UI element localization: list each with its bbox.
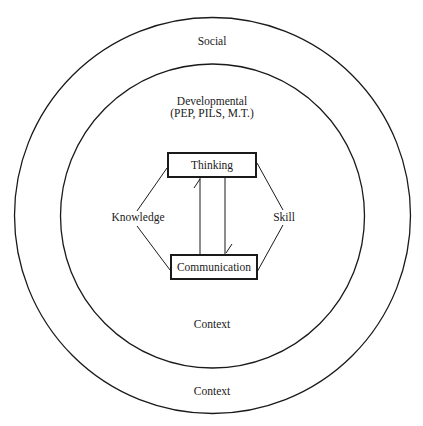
line-skill-communication (257, 225, 283, 272)
communication-node: Communication (170, 254, 258, 280)
knowledge-label: Knowledge (110, 211, 166, 224)
arrow-up-head (194, 179, 200, 188)
arrow-down-head (226, 244, 232, 253)
skill-label: Skill (268, 211, 300, 224)
outer-circle (15, 18, 411, 414)
thinking-node: Thinking (167, 152, 257, 178)
line-thinking-knowledge (137, 168, 167, 211)
line-knowledge-communication (137, 226, 170, 270)
line-thinking-skill (257, 163, 283, 210)
developmental-sublabel: (PEP, PILS, M.T.) (157, 107, 267, 120)
outer-context-label: Context (182, 385, 242, 398)
social-label: Social (182, 35, 242, 48)
diagram-canvas (0, 0, 423, 426)
inner-context-label: Context (182, 318, 242, 331)
